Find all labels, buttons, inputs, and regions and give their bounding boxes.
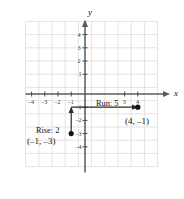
y-tick-label-1: 1 bbox=[79, 71, 82, 77]
point-a-label: (–1, –3) bbox=[27, 137, 56, 146]
x-tick-label-neg1: –1 bbox=[68, 99, 74, 105]
x-tick-label-3: 3 bbox=[123, 99, 126, 105]
y-tick-label-neg3: –3 bbox=[76, 131, 82, 137]
y-tick-label-neg2: –2 bbox=[76, 117, 82, 123]
y-tick-label-2: 2 bbox=[78, 58, 81, 64]
slope-graph-figure: x y –4 –3 –2 –1 3 4 4 3 2 1 –1 –2 –3 –4 … bbox=[0, 0, 184, 199]
x-axis-arrowhead bbox=[163, 91, 170, 97]
x-axis-letter: x bbox=[174, 89, 178, 98]
x-tick-label-neg2: –2 bbox=[54, 99, 60, 105]
y-tick-label-neg4: –4 bbox=[76, 144, 82, 150]
point-b-label: (4, –1) bbox=[125, 117, 149, 126]
y-tick-label-neg1: –1 bbox=[76, 104, 82, 110]
y-axis-letter: y bbox=[88, 8, 92, 17]
rise-label: Rise: 2 bbox=[36, 127, 59, 135]
y-axis-arrowhead bbox=[82, 20, 88, 28]
x-tick-label-neg3: –3 bbox=[41, 99, 47, 105]
x-tick-label-neg4: –4 bbox=[28, 99, 34, 105]
run-label: Run: 5 bbox=[96, 100, 118, 108]
x-tick-label-4: 4 bbox=[136, 99, 139, 105]
y-tick-label-4: 4 bbox=[78, 32, 81, 38]
point-marker-a bbox=[69, 131, 74, 136]
y-tick-label-3: 3 bbox=[78, 45, 81, 51]
point-marker-b bbox=[135, 105, 140, 110]
